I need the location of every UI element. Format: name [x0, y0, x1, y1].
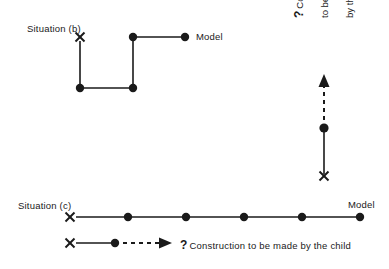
question-mark-icon: ? [292, 9, 306, 18]
construction-right-line-3: by the child [344, 0, 357, 18]
x-marker-situation-c [66, 213, 75, 222]
situation-c-construction-path [66, 238, 173, 249]
node-dot [124, 213, 132, 221]
question-mark-icon: ? [180, 238, 190, 252]
node-dot-model-b [181, 33, 189, 41]
node-dot [240, 213, 248, 221]
construction-right-path [319, 74, 330, 181]
node-dot [298, 213, 306, 221]
diagram-canvas [0, 0, 389, 269]
label-construction-right: ?Construction to be made by the child [280, 0, 326, 18]
label-situation-b: Situation (b) [27, 24, 81, 34]
node-dot [319, 123, 328, 132]
label-situation-c: Situation (c) [18, 201, 71, 211]
label-model-situation-b: Model [196, 32, 223, 42]
label-model-situation-c: Model [348, 200, 375, 210]
construction-right-line-1: ?Construction [293, 0, 307, 18]
x-marker-situation-c-construction [66, 239, 75, 248]
node-dot [76, 84, 84, 92]
arrowhead-right-icon [159, 238, 172, 249]
construction-text: Construction to be made by the child [190, 240, 351, 251]
construction-right-line-2: to be made [319, 0, 332, 18]
node-dot [129, 84, 137, 92]
arrowhead-up-icon [319, 74, 330, 87]
situation-b-path [76, 33, 190, 93]
situation-c-model-path [66, 213, 365, 222]
label-construction-situation-c: ?Construction to be made by the child [180, 239, 351, 252]
node-dot [182, 213, 190, 221]
node-dot [111, 239, 119, 247]
node-dot-model-c [356, 213, 364, 221]
node-dot [129, 33, 137, 41]
